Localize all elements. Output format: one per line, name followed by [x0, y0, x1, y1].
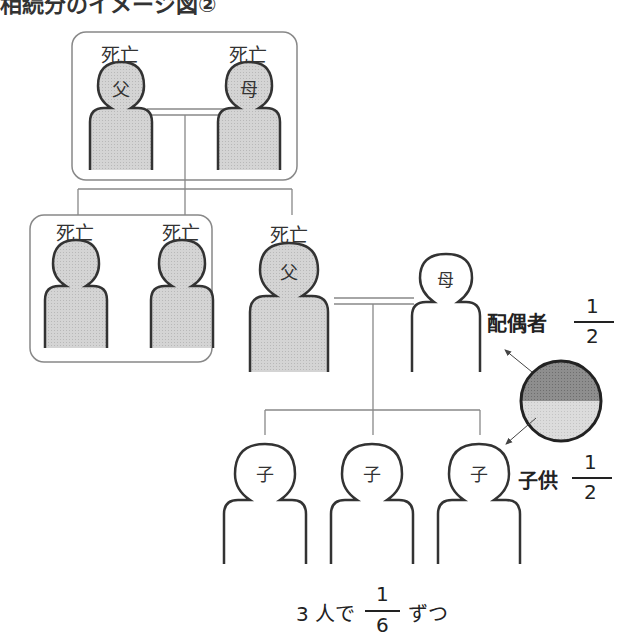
spouse-role: 母 — [437, 266, 454, 291]
inheritance-share-pie — [521, 361, 601, 441]
deceased-role: 父 — [280, 258, 298, 284]
arrow-to-children — [506, 418, 536, 444]
parents-marriage-line — [334, 298, 414, 304]
sibling-figure-2 — [151, 240, 213, 348]
grandfather-role: 父 — [112, 75, 130, 101]
children-share-label: 子供 — [518, 465, 558, 494]
grandmother-role: 母 — [240, 75, 258, 101]
grandmother-status: 死亡 — [229, 40, 267, 67]
child-1-role: 子 — [256, 460, 274, 486]
child-3-role: 子 — [470, 460, 488, 486]
per-child-suffix: ずつ — [408, 598, 448, 627]
deceased-status: 死亡 — [270, 220, 308, 247]
per-child-denominator: 6 — [376, 613, 389, 637]
child-2-role: 子 — [363, 460, 381, 486]
children-share-numerator: 1 — [584, 450, 597, 474]
spouse-share-numerator: 1 — [586, 294, 599, 318]
spouse-share-denominator: 2 — [586, 324, 599, 348]
spouse-share-label: 配偶者 — [487, 308, 547, 337]
arrow-to-spouse — [505, 350, 532, 372]
children-share-denominator: 2 — [584, 480, 597, 504]
grandparents-marriage-line — [147, 109, 225, 115]
sibling-2-status: 死亡 — [162, 218, 200, 245]
grandfather-status: 死亡 — [101, 40, 139, 67]
sibling-figure-1 — [45, 240, 107, 348]
per-child-prefix: 3 人で — [296, 598, 355, 627]
sibling-1-status: 死亡 — [56, 218, 94, 245]
per-child-numerator: 1 — [376, 582, 389, 606]
